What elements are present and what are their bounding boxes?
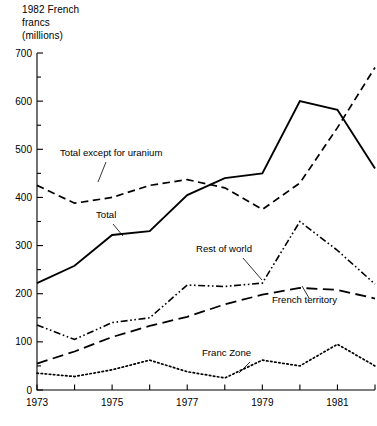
- x-tick-label: 1977: [176, 397, 199, 408]
- y-tick-label: 400: [15, 192, 32, 203]
- y-tick-labels: 0100200300400500600700: [15, 48, 32, 396]
- x-tick-label: 1975: [101, 397, 124, 408]
- y-tick-label: 200: [15, 288, 32, 299]
- x-tick-label: 1979: [251, 397, 274, 408]
- x-tick-labels: 19731975197719791981: [26, 397, 349, 408]
- series-label-3: Rest of world: [196, 243, 252, 254]
- x-tick-label: 1981: [326, 397, 349, 408]
- y-tick-label: 0: [26, 385, 32, 396]
- series-label-leader: [98, 162, 106, 182]
- series-label-4: French territory: [272, 294, 337, 305]
- y-tick-label: 600: [15, 96, 32, 107]
- axes: [37, 53, 375, 390]
- axis-lines: [37, 53, 375, 390]
- series-label-1: Total except for uranium: [60, 147, 162, 158]
- series-label-leader: [243, 258, 262, 280]
- y-tick-label: 700: [15, 48, 32, 59]
- series-annotations: Total except for uraniumTotalRest of wor…: [60, 147, 337, 373]
- y-tick-label: 100: [15, 336, 32, 347]
- series-label-5: Franc Zone: [202, 347, 251, 358]
- y-tick-label: 300: [15, 240, 32, 251]
- series-line: [37, 101, 375, 283]
- x-tick-label: 1973: [26, 397, 49, 408]
- series-line: [37, 67, 375, 209]
- data-series: [37, 67, 375, 378]
- series-line: [37, 222, 375, 340]
- line-chart-plot: 0100200300400500600700 19731975197719791…: [0, 0, 377, 426]
- y-tick-label: 500: [15, 144, 32, 155]
- chart-container: 1982 French francs (millions) 0100200300…: [0, 0, 377, 426]
- series-label-2: Total: [96, 209, 116, 220]
